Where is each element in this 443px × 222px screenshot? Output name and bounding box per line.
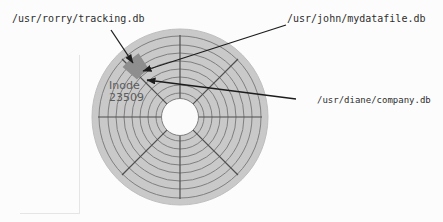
john-file-label: /usr/john/mydatafile.db [287,13,425,25]
inode-label-word: Inode [109,80,144,92]
disk-platter-diagram [0,0,443,222]
inode-label: Inode 23509 [109,80,144,103]
spindle-hole [162,99,199,136]
inode-label-number: 23509 [109,92,144,104]
rorry-file-label: /usr/rorry/tracking.db [12,13,144,25]
figure-canvas: /usr/rorry/tracking.db /usr/john/mydataf… [0,0,443,222]
diane-file-label: /usr/diane/company.db [317,94,431,106]
